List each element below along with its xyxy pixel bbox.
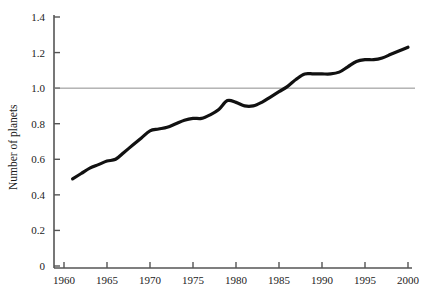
y-axis-tick-label: 0 — [40, 260, 46, 272]
x-axis-tick-label: 1990 — [311, 274, 334, 286]
x-axis-tick-labels: 196019651970197519801985199019952000 — [53, 274, 420, 286]
x-axis-tick-label: 1960 — [53, 274, 76, 286]
x-axis-tick-label: 2000 — [397, 274, 420, 286]
y-axis-title: Number of planets — [7, 104, 20, 190]
x-axis-tick-label: 1995 — [354, 274, 377, 286]
y-axis-title-text: Number of planets — [7, 104, 20, 190]
x-axis-tick-label: 1970 — [139, 274, 162, 286]
y-axis-tick-label: 0.4 — [31, 189, 45, 201]
y-axis-tick-label: 1.2 — [31, 47, 45, 59]
y-axis-tick-label: 0.8 — [31, 118, 45, 130]
x-axis-tick-label: 1965 — [96, 274, 119, 286]
y-axis-tick-label: 0.2 — [31, 224, 45, 236]
line-chart-plot: Number of planets 00.20.40.60.81.01.21.4… — [0, 0, 428, 298]
x-axis-tick-label: 1975 — [182, 274, 205, 286]
y-axis-tick-labels: 00.20.40.60.81.01.21.4 — [31, 11, 45, 272]
y-axis-tick-label: 1.4 — [31, 11, 45, 23]
y-axis-tick-label: 0.6 — [31, 153, 45, 165]
y-axis-ticks — [54, 17, 60, 266]
x-axis-tick-label: 1980 — [225, 274, 248, 286]
x-axis-ticks — [64, 262, 408, 268]
y-axis-tick-label: 1.0 — [31, 82, 45, 94]
x-axis-tick-label: 1985 — [268, 274, 291, 286]
chart-container: Number of planets 00.20.40.60.81.01.21.4… — [0, 0, 428, 298]
data-series-line — [73, 47, 408, 179]
